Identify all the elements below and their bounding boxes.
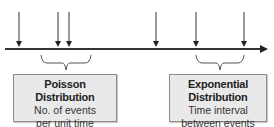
exponential-brace [196, 55, 244, 70]
timeline-arrowhead-icon [260, 45, 268, 53]
exponential-desc-line1: Time interval [170, 104, 266, 117]
poisson-desc-line1: No. of events [14, 104, 116, 117]
event-arrow-icon [153, 12, 159, 47]
poisson-brace [41, 55, 91, 70]
event-arrow-icon [241, 12, 247, 47]
braces [41, 55, 244, 70]
event-arrows [16, 12, 247, 47]
poisson-distribution-box: Poisson Distribution No. of events per u… [13, 74, 117, 122]
poisson-title: Poisson Distribution [14, 78, 116, 104]
poisson-desc-line2: per unit time [14, 117, 116, 127]
event-arrow-icon [66, 12, 72, 47]
event-arrow-icon [55, 12, 61, 47]
event-arrow-icon [193, 12, 199, 47]
event-arrow-icon [16, 12, 22, 47]
timeline-axis [5, 45, 268, 53]
exponential-distribution-box: Exponential Distribution Time interval b… [169, 74, 267, 122]
exponential-desc-line2: between events [170, 117, 266, 127]
exponential-title: Exponential Distribution [170, 78, 266, 104]
